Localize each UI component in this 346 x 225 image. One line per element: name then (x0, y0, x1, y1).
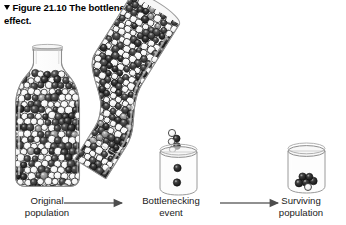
marble-mid (157, 65, 167, 75)
marble-dark (173, 49, 184, 60)
marble-darker (180, 40, 190, 50)
stage-label-event: Bottlenecking event (128, 195, 214, 218)
marble-light (144, 92, 155, 103)
marble-light (151, 71, 160, 80)
marble-light (168, 138, 174, 144)
stage-label-original-line1: Original (30, 195, 63, 206)
marble-light (305, 184, 312, 191)
marble-darker (75, 124, 82, 131)
marble-light (44, 177, 52, 185)
marble-dark (84, 119, 93, 128)
beaker-right-rim (288, 146, 325, 157)
marble-light (149, 84, 159, 94)
marble-darker (34, 148, 41, 155)
marble-darker (176, 42, 186, 52)
stage-label-event-line1: Bottlenecking (142, 195, 200, 206)
stage-label-surviving-line2: population (258, 207, 344, 219)
bottlenecking-beaker (160, 144, 197, 195)
marble-dark (150, 89, 160, 99)
marble-light (45, 81, 52, 88)
marble-darker (73, 70, 83, 80)
marble-light (187, 30, 196, 39)
marble-darker (162, 78, 171, 87)
marble-dark (80, 80, 90, 90)
marble-light (75, 135, 83, 143)
marble-dark (145, 87, 154, 96)
marble-dark (38, 106, 45, 113)
marble-light (75, 78, 82, 85)
stage-label-surviving-line1: Surviving (281, 195, 320, 206)
marble-light (143, 107, 153, 117)
marble-dark (65, 83, 71, 89)
marble-light (80, 74, 89, 83)
marble-light (65, 94, 72, 101)
original-population-bottle (10, 44, 83, 192)
marble-dark (24, 94, 31, 101)
stage-label-event-line2: event (128, 207, 214, 219)
surviving-population-beaker (288, 143, 325, 193)
marble-light (58, 154, 65, 161)
bottle-mouth (33, 44, 63, 48)
marble-light (181, 32, 191, 42)
marble-darker (80, 108, 89, 117)
marble-dark (72, 71, 79, 78)
stage-label-original-line2: population (4, 207, 90, 219)
marble-darker (174, 164, 181, 171)
marble-darker (173, 179, 180, 186)
marble-light (137, 96, 148, 107)
marble-dark (182, 26, 190, 34)
marble-light (82, 61, 91, 70)
marble-light (137, 118, 146, 127)
beaker-mid-body (160, 152, 197, 195)
marble-darker (306, 173, 313, 180)
marble-dark (85, 92, 95, 102)
marble-light (79, 87, 90, 98)
stage-label-surviving: Surviving population (258, 195, 344, 218)
marble-light (41, 124, 47, 130)
marble-dark (85, 105, 95, 115)
marble-light (145, 80, 153, 88)
marble-dark (136, 109, 146, 119)
marble-dark (31, 105, 39, 113)
marble-light (137, 104, 146, 113)
figure-bottleneck-effect: Figure 21.10 The bottleneck effect. (0, 0, 346, 225)
marble-light (17, 71, 23, 77)
marble-dark (58, 82, 64, 88)
marble-darker (149, 96, 160, 107)
marble-dark (168, 39, 177, 48)
marble-light (37, 178, 44, 185)
marble-darker (15, 76, 22, 83)
marble-darker (34, 184, 41, 191)
marble-darker (167, 46, 177, 56)
marble-dark (10, 70, 17, 77)
marble-light (162, 50, 173, 61)
marble-light (11, 82, 17, 88)
marble-light (79, 101, 88, 110)
beaker-mid-rim (160, 147, 197, 158)
marble-dark (91, 94, 100, 103)
marble-mid (55, 184, 62, 191)
marble-dark (38, 82, 44, 88)
marble-light (187, 36, 197, 46)
marble-dark (176, 35, 187, 46)
marble-darker (299, 173, 306, 180)
marble-light (90, 109, 99, 118)
marble-dark (162, 70, 171, 79)
marble-light (155, 79, 166, 90)
stage-label-original: Original population (4, 195, 90, 218)
marble-light (162, 64, 171, 73)
marble-light (79, 94, 89, 104)
marble-light (169, 59, 177, 67)
marble-light (161, 56, 171, 66)
marble-light (34, 136, 40, 142)
marble-darker (17, 105, 25, 113)
marble-light (79, 116, 87, 124)
marble-dark (51, 93, 59, 101)
marble-darker (167, 66, 178, 77)
marble-mid (61, 184, 69, 192)
marble-light (156, 59, 167, 70)
marble-light (48, 101, 54, 107)
marble-dark (24, 106, 30, 112)
marble-light (34, 76, 40, 82)
marble-darker (80, 66, 90, 76)
